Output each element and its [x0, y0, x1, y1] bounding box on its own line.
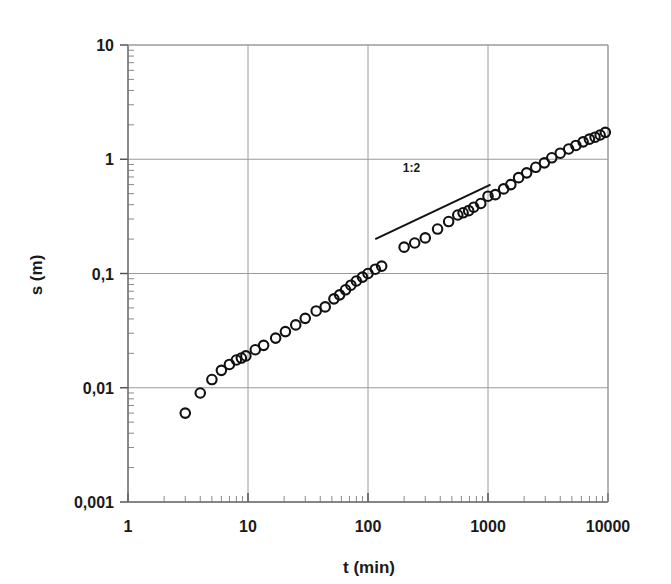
y-tick-label: 10: [96, 37, 114, 54]
x-axis-title: t (min): [343, 558, 395, 577]
y-axis-title: s (m): [27, 255, 46, 296]
x-tick-label: 1000: [470, 518, 506, 535]
y-tick-label: 0,001: [74, 494, 114, 511]
y-tick-label: 0,1: [92, 266, 114, 283]
x-tick-label: 1: [124, 518, 133, 535]
x-tick-label: 10: [239, 518, 257, 535]
y-tick-label: 1: [105, 151, 114, 168]
loglog-scatter-chart: 110100100010000 0,0010,010,1110 1:2 t (m…: [0, 0, 671, 584]
chart-figure: 110100100010000 0,0010,010,1110 1:2 t (m…: [0, 0, 671, 584]
y-tick-label: 0,01: [83, 380, 114, 397]
x-tick-label: 10000: [586, 518, 631, 535]
slope-annotation-label: 1:2: [403, 161, 421, 175]
x-tick-label: 100: [355, 518, 382, 535]
